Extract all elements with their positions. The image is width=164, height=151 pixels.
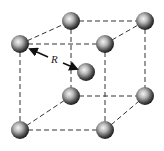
atom-back-top-left — [62, 12, 80, 30]
atom-body-center — [77, 63, 95, 81]
atom-back-bottom-right — [136, 87, 154, 105]
atom-front-top-right — [96, 35, 114, 53]
radius-label: R — [50, 53, 58, 65]
atom-back-bottom-left — [62, 87, 80, 105]
atom-back-top-right — [136, 12, 154, 30]
atom-front-bottom-right — [96, 121, 114, 139]
bcc-unit-cell-diagram: R — [0, 0, 164, 151]
radius-arrow: R — [30, 49, 77, 69]
atom-front-bottom-left — [11, 121, 29, 139]
atom-front-top-left — [11, 35, 29, 53]
